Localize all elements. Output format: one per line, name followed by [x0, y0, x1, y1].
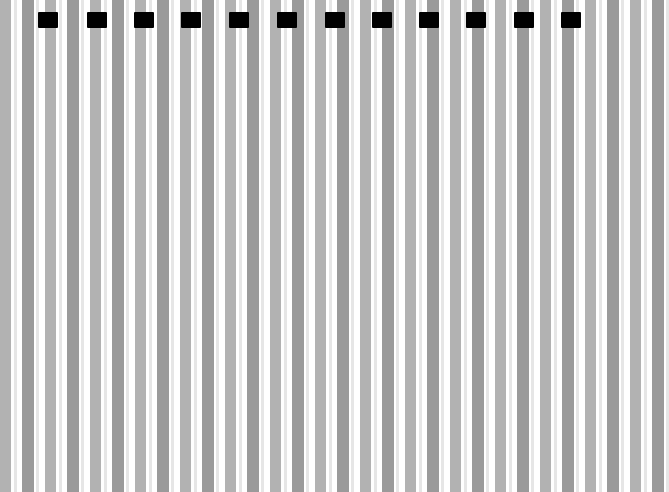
light-stripe	[36, 0, 39, 492]
black-block	[419, 12, 439, 28]
gray-stripe	[607, 0, 619, 492]
light-stripe	[216, 0, 219, 492]
gray-stripe	[0, 0, 11, 492]
light-stripe	[554, 0, 557, 492]
gray-stripe	[517, 0, 529, 492]
gray-stripe	[247, 0, 259, 492]
light-stripe	[374, 0, 377, 492]
gray-stripe	[405, 0, 416, 492]
light-stripe	[194, 0, 197, 492]
gray-stripe	[225, 0, 236, 492]
gray-stripe	[630, 0, 641, 492]
light-stripe	[104, 0, 107, 492]
light-stripe	[126, 0, 129, 492]
black-block	[561, 12, 581, 28]
light-stripe	[149, 0, 152, 492]
black-block	[372, 12, 392, 28]
light-stripe	[464, 0, 467, 492]
light-stripe	[59, 0, 62, 492]
gray-stripe	[562, 0, 574, 492]
light-stripe	[486, 0, 489, 492]
black-block	[466, 12, 486, 28]
gray-stripe	[45, 0, 56, 492]
black-block	[38, 12, 58, 28]
light-stripe	[329, 0, 332, 492]
black-block	[229, 12, 249, 28]
light-stripe	[509, 0, 512, 492]
light-stripe	[419, 0, 422, 492]
light-stripe	[621, 0, 624, 492]
gray-stripe	[382, 0, 394, 492]
gray-stripe	[270, 0, 281, 492]
gray-stripe	[360, 0, 371, 492]
black-block	[181, 12, 201, 28]
gray-stripe	[180, 0, 191, 492]
light-stripe	[261, 0, 264, 492]
light-stripe	[239, 0, 242, 492]
black-block	[87, 12, 107, 28]
gray-stripe	[135, 0, 146, 492]
light-stripe	[284, 0, 287, 492]
gray-stripe	[22, 0, 34, 492]
gray-stripe	[472, 0, 484, 492]
light-stripe	[351, 0, 354, 492]
light-stripe	[14, 0, 17, 492]
gray-stripe	[112, 0, 124, 492]
gray-stripe	[540, 0, 551, 492]
gray-stripe	[652, 0, 664, 492]
gray-stripe	[495, 0, 506, 492]
light-stripe	[171, 0, 174, 492]
black-block	[514, 12, 534, 28]
gray-stripe	[427, 0, 439, 492]
light-stripe	[576, 0, 579, 492]
gray-stripe	[585, 0, 596, 492]
gray-stripe	[337, 0, 349, 492]
gray-stripe	[202, 0, 214, 492]
black-block	[134, 12, 154, 28]
black-block	[277, 12, 297, 28]
gray-stripe	[157, 0, 169, 492]
light-stripe	[599, 0, 602, 492]
light-stripe	[81, 0, 84, 492]
light-stripe	[531, 0, 534, 492]
gray-stripe	[315, 0, 326, 492]
light-stripe	[396, 0, 399, 492]
gray-stripe	[292, 0, 304, 492]
gray-stripe	[90, 0, 101, 492]
light-stripe	[441, 0, 444, 492]
black-block	[325, 12, 345, 28]
gray-stripe	[67, 0, 79, 492]
light-stripe	[306, 0, 309, 492]
gray-stripe	[450, 0, 461, 492]
light-stripe	[644, 0, 647, 492]
